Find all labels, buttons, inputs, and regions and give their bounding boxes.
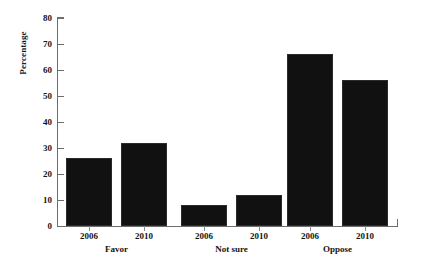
y-tick-label: 40	[8, 118, 52, 127]
x-group-label: Oppose	[323, 244, 352, 254]
y-tick-mark	[57, 200, 64, 201]
x-year-label: 2006	[195, 231, 213, 241]
y-tick-mark	[57, 18, 64, 19]
bar	[287, 54, 333, 226]
x-year-label: 2010	[356, 231, 374, 241]
x-year-label: 2006	[301, 231, 319, 241]
y-tick-label: 0	[8, 222, 52, 231]
y-tick-mark	[57, 44, 64, 45]
bar	[121, 143, 167, 226]
y-tick-label: 20	[8, 170, 52, 179]
x-year-label: 2010	[250, 231, 268, 241]
bar	[181, 205, 227, 226]
y-tick-mark	[57, 148, 64, 149]
y-tick-label: 60	[8, 66, 52, 75]
y-tick-label: 30	[8, 144, 52, 153]
y-tick-label: 70	[8, 40, 52, 49]
bar	[342, 80, 388, 226]
bar-chart: Percentage 01020304050607080 20062010200…	[0, 0, 422, 268]
y-tick-mark	[57, 122, 64, 123]
x-axis-right-cap	[397, 219, 398, 227]
y-tick-mark	[57, 174, 64, 175]
y-tick-mark	[57, 226, 64, 227]
x-group-label: Not sure	[215, 244, 248, 254]
y-tick-label: 10	[8, 196, 52, 205]
x-axis-line	[57, 226, 398, 227]
y-tick-mark	[57, 96, 64, 97]
y-tick-label: 50	[8, 92, 52, 101]
bar	[66, 158, 112, 226]
x-year-label: 2010	[135, 231, 153, 241]
y-tick-label: 80	[8, 14, 52, 23]
bar	[236, 195, 282, 226]
x-group-label: Favor	[105, 244, 128, 254]
x-year-label: 2006	[80, 231, 98, 241]
y-tick-mark	[57, 70, 64, 71]
